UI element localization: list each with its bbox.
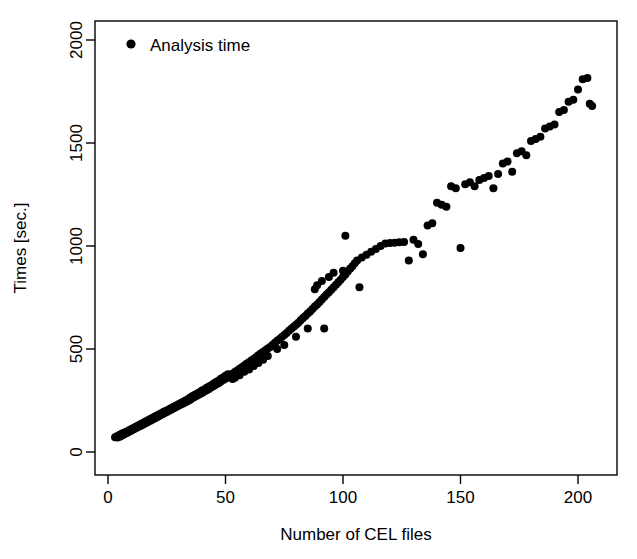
data-point (569, 96, 577, 104)
y-tick-label: 1500 (67, 124, 86, 162)
data-point (522, 151, 530, 159)
x-tick-label: 0 (103, 488, 112, 507)
data-points-layer (111, 74, 596, 441)
data-point (574, 85, 582, 93)
data-point (280, 341, 288, 349)
data-point (428, 219, 436, 227)
x-axis-title: Number of CEL files (280, 525, 431, 544)
data-point (452, 184, 460, 192)
data-point (583, 74, 591, 82)
data-point (292, 333, 300, 341)
data-point (419, 250, 427, 258)
data-point (320, 324, 328, 332)
data-point (588, 102, 596, 110)
data-point (494, 170, 502, 178)
data-point (442, 203, 450, 211)
data-point (457, 244, 465, 252)
x-tick-label: 100 (329, 488, 357, 507)
data-point (355, 283, 363, 291)
x-tick-label: 150 (446, 488, 474, 507)
x-tick-label: 50 (216, 488, 235, 507)
data-point (264, 352, 272, 360)
y-tick-label: 1000 (67, 227, 86, 265)
data-point (489, 184, 497, 192)
data-point (304, 324, 312, 332)
data-point (405, 256, 413, 264)
y-tick-label: 0 (67, 447, 86, 456)
legend: Analysis time (126, 36, 250, 55)
plot-canvas: 0500100015002000 050100150200 Analysis t… (0, 0, 637, 559)
data-point (551, 120, 559, 128)
data-point (536, 133, 544, 141)
data-point (400, 238, 408, 246)
data-point (508, 168, 516, 176)
legend-label-analysis-time: Analysis time (150, 36, 250, 55)
data-point (504, 158, 512, 166)
data-point (330, 269, 338, 277)
scatter-plot-figure: 0500100015002000 050100150200 Analysis t… (0, 0, 637, 559)
data-point (485, 172, 493, 180)
data-point (273, 345, 281, 353)
data-point (318, 277, 326, 285)
x-tick-label: 200 (564, 488, 592, 507)
y-tick-label: 500 (67, 335, 86, 363)
data-point (414, 240, 422, 248)
y-axis-ticks: 0500100015002000 (67, 21, 96, 457)
y-axis-title: Times [sec.] (11, 203, 30, 294)
data-point (341, 232, 349, 240)
y-tick-label: 2000 (67, 21, 86, 59)
data-point (560, 106, 568, 114)
legend-marker-icon (126, 39, 135, 48)
x-axis-ticks: 050100150200 (103, 475, 592, 507)
